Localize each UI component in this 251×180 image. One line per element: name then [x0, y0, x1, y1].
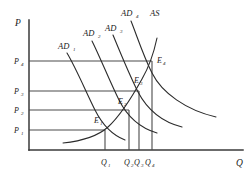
ad2-label: AD 2 — [82, 28, 101, 39]
equilibrium-e4-sub: 4 — [163, 61, 166, 66]
price-tick-p4: P 4 — [13, 57, 24, 67]
quantity-tick-q4: Q 4 — [145, 158, 155, 168]
quantity-tick-labels: Q 1 Q 2 Q 3 Q 4 — [101, 158, 155, 168]
equilibrium-e2: E 2 — [117, 97, 127, 107]
x-axis-label: Q — [236, 158, 243, 168]
quantity-tick-q3-text: Q — [134, 158, 140, 167]
ad4-label-text: AD — [120, 8, 133, 18]
ad4-label: AD 4 — [120, 8, 139, 19]
diagram-canvas: P Q P 4 P 3 P 2 P 1 Q 1 — [0, 0, 251, 180]
curve-labels: AD 1 AD 2 AD 3 AD 4 AS — [57, 8, 160, 52]
ad2-label-sub: 2 — [98, 34, 101, 39]
quantity-tick-q1-sub: 1 — [108, 163, 111, 168]
equilibrium-e2-text: E — [117, 97, 123, 106]
ad4-label-sub: 4 — [136, 14, 139, 19]
price-tick-p2-sub: 2 — [21, 111, 24, 116]
equilibrium-e3-text: E — [133, 76, 139, 85]
ad1-label-text: AD — [57, 41, 70, 51]
ad3-label: AD 3 — [104, 23, 123, 34]
price-tick-p4-sub: 4 — [21, 62, 24, 67]
equilibrium-e1-text: E — [93, 116, 99, 125]
ad2-label-text: AD — [82, 28, 95, 38]
quantity-tick-q3-sub: 3 — [141, 163, 144, 168]
price-tick-p1-sub: 1 — [21, 131, 24, 136]
quantity-tick-q2: Q 2 — [124, 158, 134, 168]
ad3-curve — [113, 35, 182, 127]
ad1-label-sub: 1 — [73, 47, 76, 52]
price-tick-p1: P 1 — [13, 126, 24, 136]
page-artifact-text — [4, 0, 52, 9]
equilibrium-e4-text: E — [156, 56, 162, 65]
ad3-label-sub: 3 — [120, 29, 123, 34]
equilibrium-e1-sub: 1 — [100, 121, 103, 126]
price-tick-p3-text: P — [13, 87, 19, 96]
price-tick-p3-sub: 3 — [21, 92, 24, 97]
ad1-curve — [67, 53, 125, 140]
price-tick-labels: P 4 P 3 P 2 P 1 — [13, 57, 24, 136]
quantity-tick-q3: Q 3 — [134, 158, 144, 168]
price-tick-p4-text: P — [13, 57, 19, 66]
price-tick-p1-text: P — [13, 126, 19, 135]
equilibrium-e3-sub: 3 — [140, 81, 143, 86]
equilibrium-e4: E 4 — [156, 56, 166, 66]
as-label-text: AS — [149, 8, 160, 18]
ad3-label-text: AD — [104, 23, 117, 33]
price-tick-p2-text: P — [13, 106, 19, 115]
y-axis-label: P — [14, 18, 21, 28]
as-label: AS — [149, 8, 160, 18]
quantity-tick-q1: Q 1 — [101, 158, 111, 168]
ad-as-diagram: P Q P 4 P 3 P 2 P 1 Q 1 — [0, 0, 251, 180]
quantity-tick-q4-sub: 4 — [152, 163, 155, 168]
equilibrium-e1: E 1 — [93, 116, 103, 126]
quantity-tick-q2-text: Q — [124, 158, 130, 167]
quantity-tick-q1-text: Q — [101, 158, 107, 167]
ad4-curve — [131, 21, 216, 117]
price-tick-p2: P 2 — [13, 106, 24, 116]
quantity-tick-q4-text: Q — [145, 158, 151, 167]
ad1-label: AD 1 — [57, 41, 76, 52]
price-tick-p3: P 3 — [13, 87, 24, 97]
ad2-curve — [92, 41, 157, 133]
equilibrium-e3: E 3 — [133, 76, 143, 86]
